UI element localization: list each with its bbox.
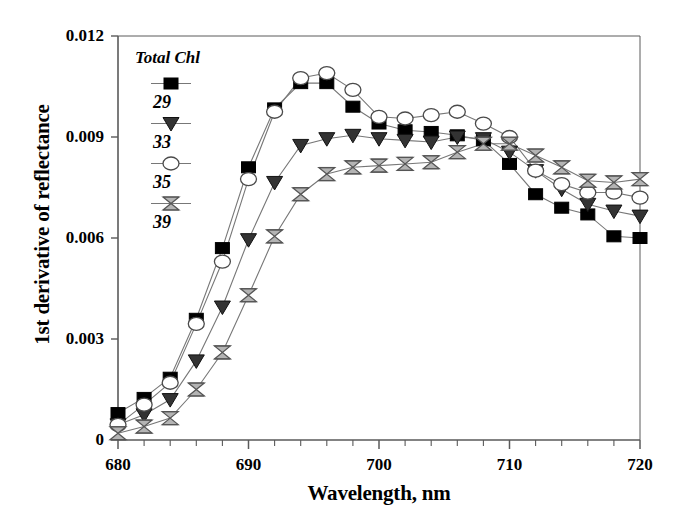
point-35-legend [163, 157, 179, 170]
y-tick-label-2: 0.006 [0, 228, 104, 248]
legend-label-29: 29 [153, 93, 171, 111]
y-tick-label-4: 0.012 [0, 26, 104, 46]
point-29-9 [346, 101, 360, 112]
point-39-20 [632, 173, 648, 186]
point-29-0 [111, 408, 125, 419]
point-33-legend [163, 118, 179, 132]
point-29-20 [633, 233, 647, 244]
x-tick-label-3: 710 [497, 455, 523, 475]
legend-marker-filled-square-icon [149, 75, 193, 92]
point-35-8 [319, 67, 335, 80]
legend: Total Chl 29333539 [131, 48, 251, 235]
point-33-2 [162, 394, 178, 408]
point-35-6 [267, 105, 283, 118]
point-35-12 [423, 109, 439, 122]
point-35-18 [580, 186, 596, 199]
point-35-4 [214, 255, 230, 268]
point-29-16 [529, 189, 543, 200]
legend-items: 29333539 [131, 75, 251, 235]
legend-entry-39[interactable]: 39 [149, 195, 251, 235]
point-33-8 [319, 133, 335, 147]
point-39-8 [319, 168, 335, 181]
point-35-17 [554, 178, 570, 191]
legend-label-39: 39 [153, 213, 171, 231]
legend-label-35: 35 [153, 173, 171, 191]
point-33-7 [293, 139, 309, 153]
point-35-3 [188, 317, 204, 330]
x-tick-label-1: 690 [236, 455, 262, 475]
point-39-6 [267, 230, 283, 243]
point-39-2 [162, 412, 178, 425]
legend-entry-29[interactable]: 29 [149, 75, 251, 115]
point-29-19 [607, 231, 621, 242]
legend-title: Total Chl [135, 48, 251, 68]
point-33-20 [632, 210, 648, 224]
y-axis-title: 1st derivative of reflectance [30, 15, 55, 435]
point-35-1 [136, 398, 152, 411]
legend-marker-filled-triangle-down-icon [149, 115, 193, 132]
point-39-1 [136, 420, 152, 433]
legend-marker-bowtie-icon [149, 195, 193, 212]
point-39-16 [528, 149, 544, 162]
y-tick-label-1: 0.003 [0, 329, 104, 349]
point-39-3 [188, 383, 204, 396]
legend-entry-35[interactable]: 35 [149, 155, 251, 195]
x-tick-label-2: 700 [366, 455, 392, 475]
x-tick-label-0: 680 [105, 455, 131, 475]
point-39-13 [449, 146, 465, 159]
point-33-3 [188, 355, 204, 369]
point-35-14 [475, 117, 491, 130]
point-39-7 [293, 188, 309, 201]
point-29-legend [164, 78, 178, 89]
x-tick-label-4: 720 [627, 455, 653, 475]
point-35-11 [397, 112, 413, 125]
point-33-4 [214, 301, 230, 315]
legend-label-33: 33 [153, 133, 171, 151]
x-axis-title: Wavelength, nm [118, 481, 640, 506]
point-35-10 [371, 110, 387, 123]
legend-marker-open-circle-icon [149, 155, 193, 172]
y-tick-label-3: 0.009 [0, 127, 104, 147]
point-35-7 [293, 72, 309, 85]
point-29-17 [555, 202, 569, 213]
point-35-13 [449, 105, 465, 118]
point-35-20 [632, 191, 648, 204]
point-33-6 [267, 176, 283, 190]
y-tick-label-0: 0 [0, 430, 104, 450]
figure-root: 1st derivative of reflectance Wavelength… [0, 0, 675, 520]
point-39-5 [241, 289, 257, 302]
legend-entry-33[interactable]: 33 [149, 115, 251, 155]
point-35-9 [345, 83, 361, 96]
point-39-0 [110, 427, 126, 440]
point-39-4 [214, 346, 230, 359]
point-35-2 [162, 376, 178, 389]
point-35-16 [528, 164, 544, 177]
point-29-4 [215, 243, 229, 254]
point-33-12 [423, 136, 439, 150]
point-39-17 [554, 161, 570, 174]
point-33-5 [241, 234, 257, 248]
